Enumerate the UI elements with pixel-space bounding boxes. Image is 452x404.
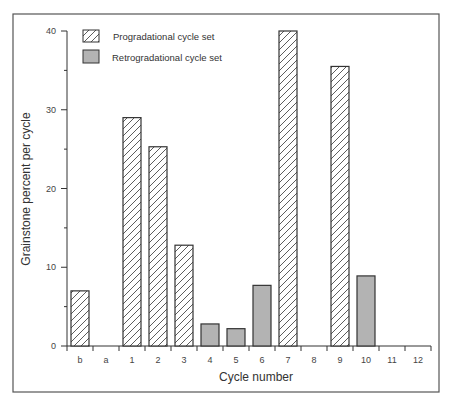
bar-progradational — [279, 31, 297, 346]
x-tick-label: 9 — [337, 355, 342, 365]
x-tick-label: 4 — [207, 355, 212, 365]
bar-progradational — [331, 66, 349, 346]
x-tick-label: 12 — [413, 355, 423, 365]
x-tick-label: 1 — [129, 355, 134, 365]
bar-progradational — [175, 245, 193, 346]
x-tick-label: 8 — [311, 355, 316, 365]
y-tick-label: 20 — [46, 184, 56, 194]
y-tick-label: 30 — [46, 105, 56, 115]
bar-progradational — [123, 118, 141, 346]
x-tick-label: 5 — [233, 355, 238, 365]
chart: 010203040 Grainstone percent per cycle b… — [0, 0, 452, 404]
x-tick-label: 10 — [361, 355, 371, 365]
x-tick-label: 2 — [155, 355, 160, 365]
bar-retrogradational — [201, 324, 219, 346]
legend: Progradational cycle set Retrogradationa… — [83, 30, 222, 63]
y-tick-label: 10 — [46, 262, 56, 272]
bar-progradational — [149, 147, 167, 346]
y-tick-label: 0 — [51, 341, 56, 351]
legend-item-retrogradational: Retrogradational cycle set — [83, 50, 222, 63]
legend-label: Retrogradational cycle set — [112, 52, 222, 63]
x-tick-label: 6 — [259, 355, 264, 365]
x-axis-title: Cycle number — [219, 370, 293, 384]
gray-swatch-icon — [83, 50, 99, 63]
x-axis: ba123456789101112 Cycle number — [67, 346, 431, 384]
hatched-swatch-icon — [83, 30, 99, 42]
x-tick-label: 3 — [181, 355, 186, 365]
x-tick-label: 11 — [387, 355, 396, 365]
legend-item-progradational: Progradational cycle set — [83, 30, 215, 42]
bar-retrogradational — [253, 285, 271, 346]
x-tick-label: 7 — [285, 355, 290, 365]
x-tick-label: a — [103, 355, 108, 365]
x-tick-label: b — [77, 355, 82, 365]
legend-label: Progradational cycle set — [113, 31, 215, 42]
y-axis: 010203040 Grainstone percent per cycle — [19, 26, 67, 351]
y-tick-label: 40 — [46, 26, 56, 36]
bar-progradational — [71, 291, 89, 346]
bar-retrogradational — [227, 329, 245, 346]
y-axis-title: Grainstone percent per cycle — [19, 112, 33, 266]
bars — [71, 31, 375, 346]
bar-retrogradational — [357, 276, 375, 346]
